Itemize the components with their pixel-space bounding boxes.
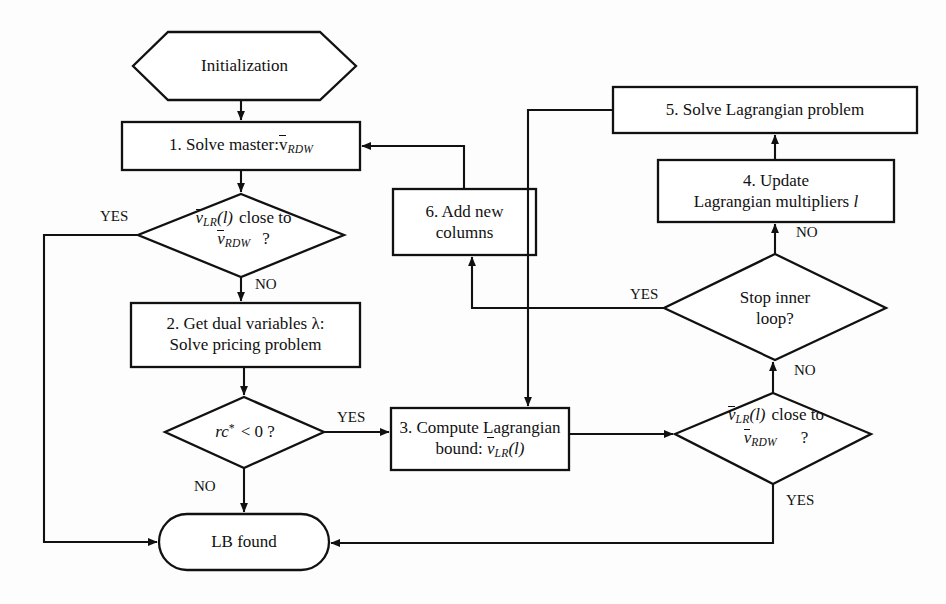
step-2-shape — [131, 303, 360, 367]
flowchart-connector-layer — [0, 0, 946, 604]
step-3-shape — [391, 408, 569, 470]
edge-step5-to-step3 — [528, 110, 613, 406]
decision-4-shape — [664, 254, 886, 360]
edge-decision1-yes-to-lb — [44, 235, 157, 542]
edge-label-decision2-yes: YES — [337, 409, 365, 426]
decision-2-shape — [165, 397, 324, 468]
edge-label-decision3-yes: YES — [786, 492, 814, 509]
edge-decision3-yes-to-lb — [331, 484, 773, 543]
edge-label-decision4-yes: YES — [630, 286, 658, 303]
edge-label-decision4-no: NO — [796, 224, 818, 241]
step-4-shape — [658, 160, 894, 222]
decision-1-shape — [138, 194, 344, 277]
edge-step6-to-step1 — [362, 146, 464, 189]
edge-label-decision2-no: NO — [194, 478, 216, 495]
initialization-shape — [133, 32, 356, 100]
step-5-shape — [613, 87, 917, 133]
flowchart-canvas: Initialization 1. Solve master:vRDW vLR(… — [0, 0, 946, 604]
decision-3-shape — [675, 393, 871, 484]
edge-label-decision1-yes: YES — [100, 208, 128, 225]
step-1-shape — [122, 122, 360, 170]
terminal-lb-found-shape — [159, 514, 329, 570]
edge-label-decision3-no: NO — [794, 362, 816, 379]
edge-label-decision1-no: NO — [255, 276, 277, 293]
step-6-shape — [393, 189, 536, 255]
